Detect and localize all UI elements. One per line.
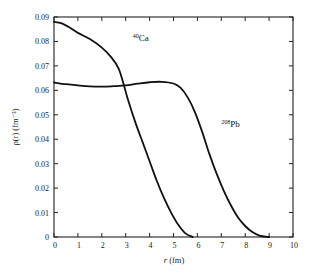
y-tick-label: 0.05: [35, 111, 49, 120]
label-208pb: 208Pb: [221, 119, 240, 129]
x-tick-label: 6: [196, 241, 200, 250]
curve-40ca: [54, 22, 193, 237]
label-40ca: 40Ca: [133, 33, 149, 43]
x-tick-label: 2: [101, 241, 105, 250]
y-axis-ticks: 00.010.020.030.040.050.060.070.080.09: [35, 13, 293, 242]
x-tick-label: 0: [53, 241, 57, 250]
y-tick-label: 0.02: [35, 184, 49, 193]
y-tick-label: 0.06: [35, 86, 49, 95]
x-tick-label: 3: [125, 241, 129, 250]
y-tick-label: 0.09: [35, 13, 49, 22]
x-tick-label: 7: [220, 241, 224, 250]
x-tick-label: 8: [244, 241, 248, 250]
series-curves: [54, 22, 269, 237]
y-axis-label: ρ(r) (fm⁻³): [10, 108, 20, 145]
y-tick-label: 0.08: [35, 37, 49, 46]
curve-208pb: [54, 82, 269, 237]
y-tick-label: 0.03: [35, 160, 49, 169]
series-labels: 40Ca208Pb: [133, 33, 240, 129]
y-tick-label: 0.04: [35, 135, 49, 144]
x-tick-label: 10: [290, 241, 298, 250]
plot-border: [54, 17, 293, 237]
plot-frame: [54, 17, 293, 237]
y-tick-label: 0.01: [35, 209, 49, 218]
x-axis-ticks: 012345678910: [53, 17, 298, 250]
y-tick-label: 0: [45, 233, 49, 242]
x-tick-label: 1: [77, 241, 81, 250]
density-chart: 00.010.020.030.040.050.060.070.080.09 01…: [0, 0, 311, 274]
x-tick-label: 4: [149, 241, 153, 250]
x-tick-label: 5: [173, 241, 177, 250]
x-tick-label: 9: [268, 241, 272, 250]
y-tick-label: 0.07: [35, 62, 49, 71]
x-axis-label: r (fm): [164, 255, 185, 265]
